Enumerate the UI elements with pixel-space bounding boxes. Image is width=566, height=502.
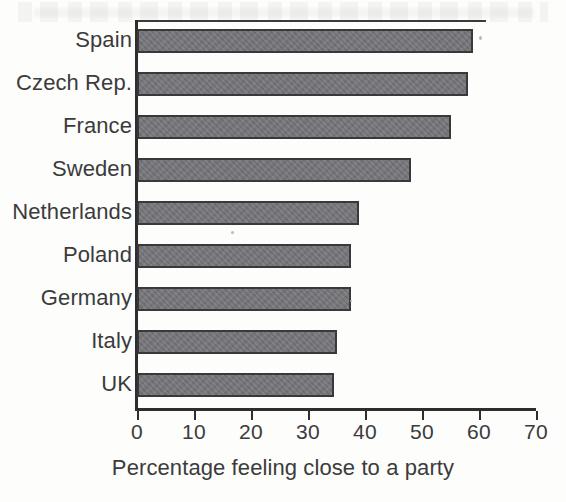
x-tick-0 <box>137 411 139 420</box>
category-label-italy: Italy <box>0 330 132 352</box>
x-tick-label-10: 10 <box>169 420 219 444</box>
category-label-netherlands: Netherlands <box>0 201 132 223</box>
x-tick-50 <box>422 411 424 420</box>
x-tick-10 <box>194 411 196 420</box>
x-tick-20 <box>251 411 253 420</box>
x-tick-label-20: 20 <box>226 420 276 444</box>
x-tick-70 <box>536 411 538 420</box>
plot-area: SpainCzech Rep.FranceSwedenNetherlandsPo… <box>0 0 566 502</box>
category-label-france: France <box>0 115 132 137</box>
bar-sweden <box>137 158 411 182</box>
x-tick-60 <box>479 411 481 420</box>
category-label-poland: Poland <box>0 244 132 266</box>
scan-speck <box>231 231 234 234</box>
scan-speck <box>479 36 482 40</box>
category-label-spain: Spain <box>0 29 132 51</box>
plot-top-rule <box>137 20 486 22</box>
bar-spain <box>137 29 473 53</box>
category-label-germany: Germany <box>0 287 132 309</box>
bar-france <box>137 115 451 139</box>
x-tick-40 <box>365 411 367 420</box>
bar-chart-figure: SpainCzech Rep.FranceSwedenNetherlandsPo… <box>0 0 566 502</box>
bar-italy <box>137 330 337 354</box>
x-axis-title: Percentage feeling close to a party <box>0 455 566 481</box>
category-label-czech-rep: Czech Rep. <box>0 72 132 94</box>
x-tick-30 <box>308 411 310 420</box>
category-label-sweden: Sweden <box>0 158 132 180</box>
bar-netherlands <box>137 201 359 225</box>
bar-germany <box>137 287 351 311</box>
x-tick-label-70: 70 <box>511 420 561 444</box>
bar-czech-rep <box>137 72 468 96</box>
category-label-uk: UK <box>0 373 132 395</box>
bar-uk <box>137 373 334 397</box>
x-tick-label-0: 0 <box>112 420 162 444</box>
x-tick-label-40: 40 <box>340 420 390 444</box>
x-tick-label-50: 50 <box>397 420 447 444</box>
x-tick-label-30: 30 <box>283 420 333 444</box>
bar-poland <box>137 244 351 268</box>
x-tick-label-60: 60 <box>454 420 504 444</box>
